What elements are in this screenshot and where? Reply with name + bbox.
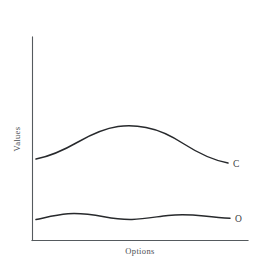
series-label-c: C bbox=[233, 159, 239, 169]
series-label-o: O bbox=[235, 214, 242, 224]
series-line-o bbox=[36, 214, 230, 220]
series-line-c bbox=[36, 126, 228, 163]
line-chart-canvas: C O Options Values bbox=[0, 0, 263, 272]
x-axis-title: Options bbox=[125, 246, 154, 256]
y-axis-title: Values bbox=[12, 127, 22, 152]
chart-figure: C O Options Values bbox=[0, 0, 263, 272]
